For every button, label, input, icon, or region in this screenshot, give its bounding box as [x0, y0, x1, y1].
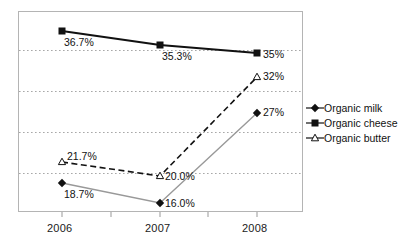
data-label-cheese-2006: 36.7%: [64, 36, 94, 48]
x-tick-label-2007: 2007: [145, 222, 170, 234]
data-label-butter-2006: 21.7%: [67, 150, 97, 162]
chart-legend: Organic milk Organic cheese Organic butt…: [306, 100, 402, 145]
legend-label: Organic butter: [324, 131, 391, 145]
legend-label: Organic milk: [324, 101, 382, 115]
data-label-milk-2007: 16.0%: [165, 197, 195, 209]
x-tick-label-2006: 2006: [47, 222, 72, 234]
legend-label: Organic cheese: [324, 116, 398, 130]
data-label-milk-2006: 18.7%: [64, 188, 94, 200]
data-point-cheese-2007: [157, 42, 164, 49]
open-triangle-icon: [306, 131, 324, 145]
data-point-cheese-2006: [59, 28, 66, 35]
legend-item-organic-butter[interactable]: Organic butter: [306, 130, 402, 145]
filled-square-icon: [306, 116, 324, 130]
x-axis-ticks: [62, 212, 257, 217]
data-label-milk-2008: 27%: [263, 106, 284, 118]
data-label-cheese-2008: 35%: [263, 48, 284, 60]
x-tick-label-2008: 2008: [242, 222, 267, 234]
filled-diamond-icon: [306, 101, 324, 115]
data-label-butter-2007: 20.0%: [165, 170, 195, 182]
line-chart: 36.7% 35.3% 35% 21.7% 20.0% 32% 18.7% 16…: [0, 0, 405, 248]
legend-item-organic-cheese[interactable]: Organic cheese: [306, 115, 402, 130]
data-point-cheese-2008: [254, 50, 261, 57]
data-label-cheese-2007: 35.3%: [162, 50, 192, 62]
data-label-butter-2008: 32%: [263, 70, 284, 82]
legend-item-organic-milk[interactable]: Organic milk: [306, 100, 402, 115]
